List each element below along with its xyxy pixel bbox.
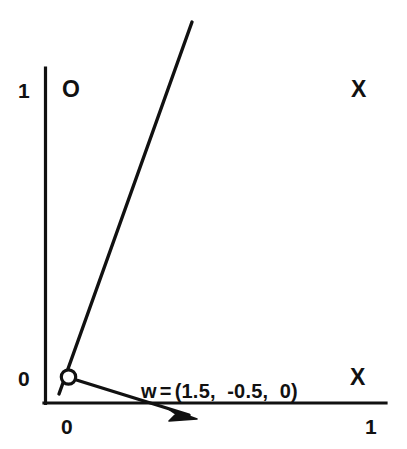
y-axis-tick-label-top: 1 <box>18 80 30 101</box>
x-axis-tick-label-left: 0 <box>61 416 73 437</box>
perceptron-figure: 1 0 0 1 O X X w=(1.5, -0.5, 0) <box>0 0 407 449</box>
class-marker-x-top-right: X <box>351 78 366 101</box>
weight-vector-values: (1.5, -0.5, 0) <box>175 380 298 402</box>
weight-vector-symbol: w <box>141 380 157 402</box>
equals-sign: = <box>157 380 175 402</box>
class-marker-x-bottom-right: X <box>350 366 365 389</box>
origin-point-marker <box>61 370 75 384</box>
class-marker-o-top-left: O <box>62 78 80 101</box>
weight-vector-annotation: w=(1.5, -0.5, 0) <box>118 361 298 421</box>
y-axis-tick-label-bottom: 0 <box>18 368 30 389</box>
x-axis-tick-label-right: 1 <box>365 416 377 437</box>
